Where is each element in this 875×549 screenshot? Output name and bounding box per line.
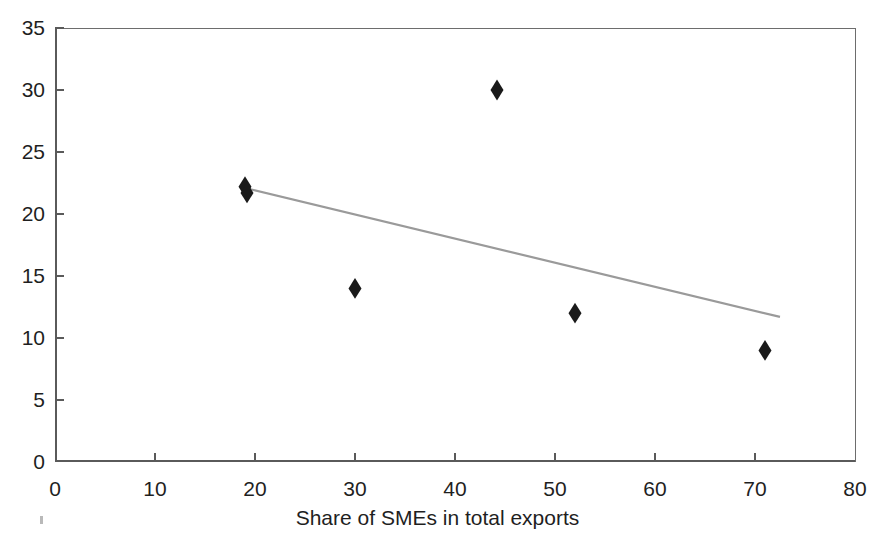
x-tick-mark — [654, 453, 656, 462]
y-tick-label: 35 — [3, 17, 45, 38]
y-tick-label: 5 — [3, 389, 45, 410]
y-tick-label: 0 — [3, 451, 45, 472]
x-tick-label: 40 — [425, 478, 485, 499]
plot-area-top-border — [55, 28, 855, 29]
y-tick-mark — [55, 275, 64, 277]
x-tick-label: 0 — [25, 478, 85, 499]
y-tick-label: 20 — [3, 203, 45, 224]
x-tick-mark — [454, 453, 456, 462]
y-tick-mark — [55, 337, 64, 339]
x-tick-label: 30 — [325, 478, 385, 499]
x-tick-label: 10 — [125, 478, 185, 499]
y-tick-mark — [55, 89, 64, 91]
y-tick-label: 10 — [3, 327, 45, 348]
x-tick-label: 80 — [825, 478, 875, 499]
x-axis-title: Share of SMEs in total exports — [0, 506, 875, 530]
y-tick-label: 30 — [3, 79, 45, 100]
x-tick-mark — [254, 453, 256, 462]
y-tick-label: 25 — [3, 141, 45, 162]
plot-area-right-border — [855, 28, 856, 462]
x-tick-mark — [754, 453, 756, 462]
y-tick-mark — [55, 399, 64, 401]
y-tick-label: 15 — [3, 265, 45, 286]
y-tick-mark — [55, 27, 64, 29]
x-tick-mark — [354, 453, 356, 462]
plot-area — [55, 28, 855, 462]
scatter-chart: 05101520253035 01020304050607080 Share o… — [0, 0, 875, 549]
x-tick-label: 60 — [625, 478, 685, 499]
x-tick-label: 20 — [225, 478, 285, 499]
x-tick-mark — [554, 453, 556, 462]
y-tick-mark — [55, 213, 64, 215]
y-tick-mark — [55, 151, 64, 153]
x-tick-label: 50 — [525, 478, 585, 499]
x-tick-label: 70 — [725, 478, 785, 499]
x-tick-mark — [154, 453, 156, 462]
